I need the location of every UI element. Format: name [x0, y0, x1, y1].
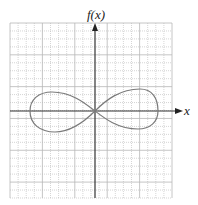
x-axis-arrow-icon — [175, 108, 183, 114]
coordinate-plane — [0, 0, 198, 205]
axes — [10, 23, 183, 198]
y-axis-arrow-icon — [92, 23, 98, 31]
y-axis-label: f(x) — [87, 7, 105, 23]
x-axis-label: x — [184, 103, 190, 119]
